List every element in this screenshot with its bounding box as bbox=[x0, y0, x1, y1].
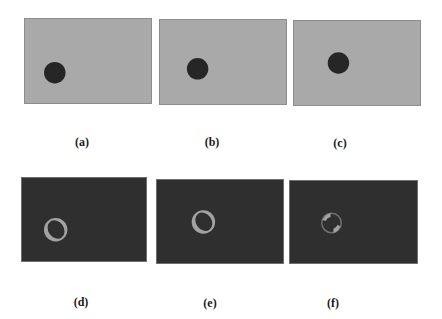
moving-disk bbox=[44, 62, 65, 83]
caption-f: (f) bbox=[327, 296, 339, 311]
panel-d bbox=[21, 177, 147, 262]
difference-ring bbox=[192, 209, 216, 234]
panel-f bbox=[289, 180, 418, 264]
caption-c: (c) bbox=[333, 136, 346, 151]
panel-c bbox=[293, 20, 421, 106]
caption-b: (b) bbox=[205, 135, 220, 150]
panel-f-graphic bbox=[290, 181, 417, 263]
panel-e bbox=[156, 179, 284, 264]
caption-e: (e) bbox=[203, 296, 216, 311]
moving-disk bbox=[187, 58, 208, 79]
caption-a: (a) bbox=[75, 135, 89, 150]
difference-ring bbox=[44, 217, 68, 242]
moving-disk bbox=[328, 52, 349, 73]
caption-d: (d) bbox=[74, 295, 89, 310]
panel-e-graphic bbox=[157, 180, 283, 263]
panel-d-graphic bbox=[22, 178, 146, 261]
panel-a-graphic bbox=[25, 19, 151, 103]
panel-c-graphic bbox=[294, 21, 420, 105]
difference-ring bbox=[322, 213, 342, 233]
panel-a bbox=[24, 18, 152, 104]
panel-b-graphic bbox=[160, 20, 286, 104]
panel-b bbox=[159, 19, 287, 105]
